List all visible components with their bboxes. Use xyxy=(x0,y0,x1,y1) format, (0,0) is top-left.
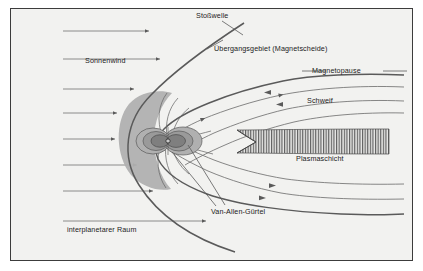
leader-stosswelle xyxy=(222,21,243,35)
leader-vanallen-1 xyxy=(188,145,225,205)
label-stosswelle: Stoßwelle xyxy=(196,12,228,19)
label-sonnenwind: Sonnenwind xyxy=(85,57,126,64)
label-plasmaschicht: Plasmaschicht xyxy=(296,155,344,162)
tail-arrow-upper-1 xyxy=(264,90,271,95)
tail-arrow-upper-2 xyxy=(276,102,283,107)
diagram-frame: Stoßwelle Übergangsgebiet (Magnetscheide… xyxy=(10,8,413,261)
tail-arrow-lower-2 xyxy=(259,196,266,201)
van-allen-belts xyxy=(136,127,202,155)
label-magnetopause: Magnetopause xyxy=(312,67,361,74)
label-interplanetarer-raum: interplanetarer Raum xyxy=(67,226,137,233)
label-schweif: Schweif xyxy=(307,97,333,104)
magnetosphere-drawing xyxy=(11,9,412,260)
diagram-page: Stoßwelle Übergangsgebiet (Magnetscheide… xyxy=(0,0,423,271)
label-uebergangsgebiet: Übergangsgebiet (Magnetscheide) xyxy=(214,45,327,52)
label-van-allen-guertel: Van-Allen-Gürtel xyxy=(211,208,265,215)
tail-arrow-lower-1 xyxy=(269,183,276,188)
plasma-sheet xyxy=(237,129,389,154)
